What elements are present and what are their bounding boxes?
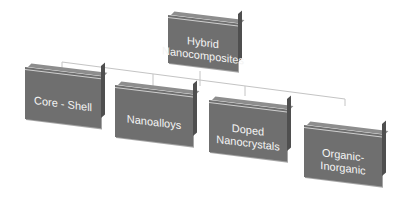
node-organic-inorganic-label: Organic-Inorganic <box>304 131 382 193</box>
node-nanoalloys: Nanoalloys <box>115 85 193 137</box>
node-root-label: Hybrid Nanocomposites <box>168 21 238 78</box>
node-core-shell: Core - Shell <box>25 67 101 119</box>
box-side-face <box>382 120 386 176</box>
box-side-face <box>101 62 105 118</box>
node-root: Hybrid Nanocomposites <box>168 15 238 63</box>
box-side-face <box>193 80 197 136</box>
node-nanoalloys-label: Nanoalloys <box>115 91 193 153</box>
node-organic-inorganic: Organic-Inorganic <box>304 125 382 177</box>
node-core-shell-label: Core - Shell <box>25 73 101 134</box>
box-side-face <box>287 95 291 151</box>
node-doped-nanocrystals: Doped Nanocrystals <box>209 100 287 152</box>
node-doped-nanocrystals-label: Doped Nanocrystals <box>209 106 287 168</box>
